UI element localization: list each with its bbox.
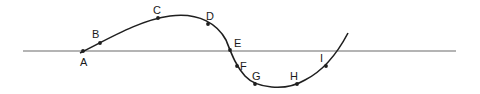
point-i-marker	[324, 64, 328, 68]
point-e-marker	[228, 48, 232, 52]
point-d-marker	[206, 22, 210, 26]
point-h-label: H	[290, 70, 298, 82]
point-e-label: E	[234, 37, 241, 49]
point-f-marker	[235, 64, 239, 68]
point-g-label: G	[252, 70, 261, 82]
wave-diagram: ABCDEFGHI	[0, 0, 480, 94]
point-h-marker	[295, 82, 299, 86]
point-d-label: D	[206, 10, 214, 22]
point-f-label: F	[240, 60, 247, 72]
point-a-marker	[81, 49, 85, 53]
point-b-marker	[98, 41, 102, 45]
point-c-marker	[156, 16, 160, 20]
point-b-label: B	[92, 28, 99, 40]
point-c-label: C	[153, 4, 161, 16]
point-a-label: A	[80, 56, 88, 68]
point-i-label: I	[320, 52, 323, 64]
point-g-marker	[253, 82, 257, 86]
labeled-points: ABCDEFGHI	[80, 4, 328, 86]
